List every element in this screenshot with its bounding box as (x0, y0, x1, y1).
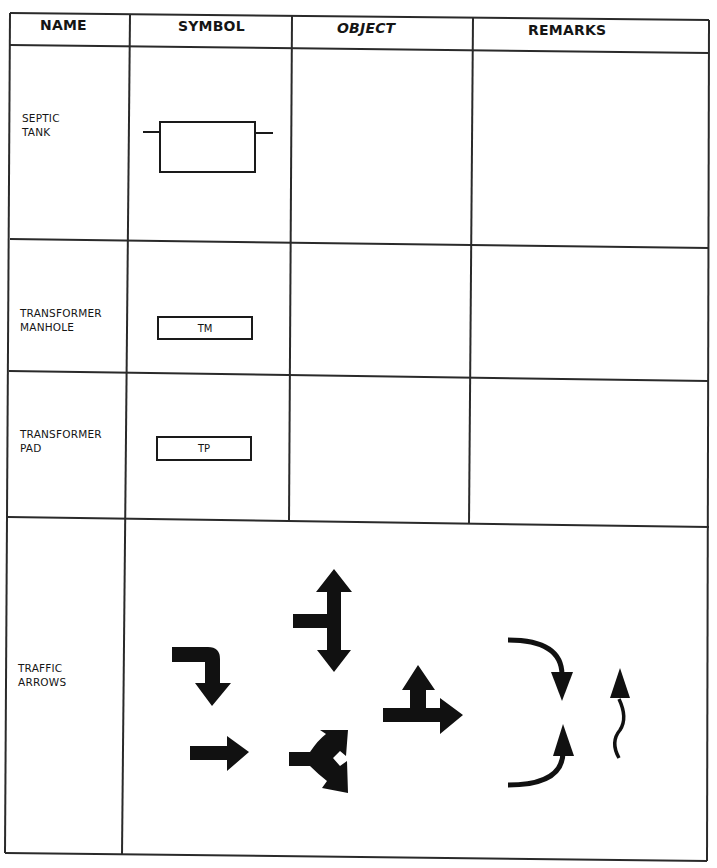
straight-right-arrow-icon (190, 736, 249, 771)
symbol-text-tm: TM (198, 323, 213, 334)
row-name-transformer-manhole: TRANSFORMER MANHOLE (20, 306, 102, 334)
transformer-pad-symbol: TP (156, 436, 252, 461)
row-name-septic-tank: SEPTIC TANK (22, 111, 60, 139)
curve-down-arrow-icon (508, 640, 562, 675)
right-turn-down-arrow-icon (172, 647, 231, 706)
header-object: OBJECT (337, 20, 395, 35)
header-remarks: REMARKS (528, 22, 606, 37)
wavy-up-arrow-icon (615, 699, 624, 758)
header-symbol: SYMBOL (178, 18, 245, 33)
transformer-manhole-symbol: TM (157, 316, 253, 340)
septic-tank-symbol (143, 122, 273, 172)
header-name: NAME (40, 17, 87, 32)
row-name-transformer-pad: TRANSFORMER PAD (20, 427, 102, 455)
straight-and-up-arrow-icon (383, 665, 463, 734)
row-name-traffic-arrows: TRAFFIC ARROWS (18, 661, 66, 689)
table-grid (0, 0, 717, 868)
symbol-text-tp: TP (198, 443, 210, 454)
forked-right-arrow-icon (289, 730, 348, 793)
two-way-vertical-with-left-branch-arrow-icon (293, 569, 352, 672)
curve-up-arrow-icon (508, 752, 563, 785)
